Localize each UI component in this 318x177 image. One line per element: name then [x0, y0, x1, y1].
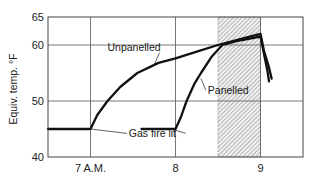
y-tick-label: 60 — [32, 39, 44, 51]
y-axis-ticks: 40506065 — [32, 11, 44, 163]
y-tick-label: 40 — [32, 151, 44, 163]
x-tick-label: 8 — [172, 162, 178, 174]
y-axis-label: Equiv. temp. °F — [7, 53, 19, 124]
annotation-leader — [201, 79, 206, 91]
annotation-unpanelled: Unpanelled — [108, 41, 161, 53]
x-axis-ticks: 7 A.M.89 — [75, 162, 264, 174]
x-tick-label: 9 — [257, 162, 263, 174]
y-tick-label: 50 — [32, 95, 44, 107]
annotation-leader — [91, 129, 127, 133]
y-tick-label: 65 — [32, 11, 44, 23]
x-tick-label: 7 A.M. — [75, 162, 106, 174]
chart: 40506065 7 A.M.89 UnpanelledPanelledGas … — [0, 0, 318, 177]
annotation-gas-fire-lit: Gas fire lit — [129, 127, 176, 139]
annotation-panelled: Panelled — [208, 84, 249, 96]
